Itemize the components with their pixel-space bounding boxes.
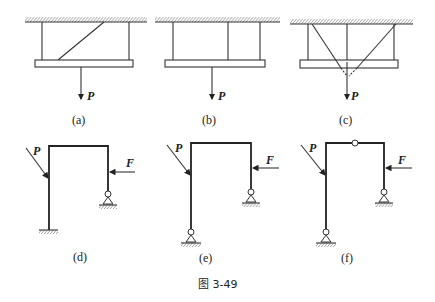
pin-support-icon <box>181 229 201 247</box>
panel-label-b: (b) <box>202 113 216 127</box>
figure-caption: 图 3-49 <box>198 278 237 291</box>
panel-b: P (b) <box>155 17 280 127</box>
pin-support-icon <box>375 189 393 207</box>
inclined-rod <box>58 22 104 60</box>
portal-frame-right <box>358 143 384 189</box>
force-label-p: P <box>87 89 95 103</box>
panel-d: P F (d) <box>26 144 135 264</box>
force-label-f: F <box>265 153 274 167</box>
pin-support-icon <box>99 191 117 209</box>
panel-label-c: (c) <box>339 113 352 127</box>
panel-label-e: (e) <box>199 251 212 265</box>
inclined-rod-left-hidden <box>341 68 347 76</box>
ceiling-support-icon <box>25 17 147 22</box>
rigid-beam <box>300 60 398 68</box>
panel-c: P (c) <box>290 19 413 127</box>
portal-frame <box>49 146 108 230</box>
rigid-beam <box>35 60 133 67</box>
inclined-rod-right-hidden <box>349 68 357 76</box>
force-label-p: P <box>33 144 41 158</box>
ceiling-support-icon <box>290 19 413 24</box>
figure-3-49: P (a) P (b) P (c) <box>0 0 435 302</box>
force-label-p: P <box>218 89 226 103</box>
force-label-f: F <box>397 153 406 167</box>
ceiling-support-icon <box>155 17 280 22</box>
panel-label-d: (d) <box>73 250 87 264</box>
pin-support-icon <box>316 229 336 247</box>
fixed-support-icon <box>39 230 58 234</box>
force-label-p: P <box>175 141 183 155</box>
panel-label-f: (f) <box>341 251 353 265</box>
middle-hinge-icon <box>352 140 358 146</box>
portal-frame-left <box>326 143 352 229</box>
rigid-beam <box>165 60 265 67</box>
pin-support-icon <box>242 189 260 207</box>
panel-e: P F (e) <box>167 141 279 265</box>
panel-label-a: (a) <box>72 113 85 127</box>
force-label-p: P <box>309 141 317 155</box>
force-label-p: P <box>351 89 359 103</box>
panel-f: P F (f) <box>301 140 412 265</box>
force-label-f: F <box>125 156 134 170</box>
panel-a: P (a) <box>25 17 147 127</box>
portal-frame <box>191 143 251 229</box>
